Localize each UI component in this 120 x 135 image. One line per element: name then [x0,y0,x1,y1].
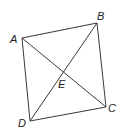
segment-ab [22,23,97,38]
segment-cd [30,107,106,121]
edges [22,23,106,121]
vertex-label-d: D [18,117,26,129]
intersection-label-e: E [58,78,66,90]
vertex-label-a: A [9,33,17,45]
vertex-label-c: C [108,102,116,114]
vertex-label-b: B [97,10,104,22]
segment-bc [97,23,106,107]
quadrilateral-diagram: A B C D E [0,0,120,135]
segment-da [22,38,30,121]
segment-bd [30,23,97,121]
segment-ac [22,38,106,107]
